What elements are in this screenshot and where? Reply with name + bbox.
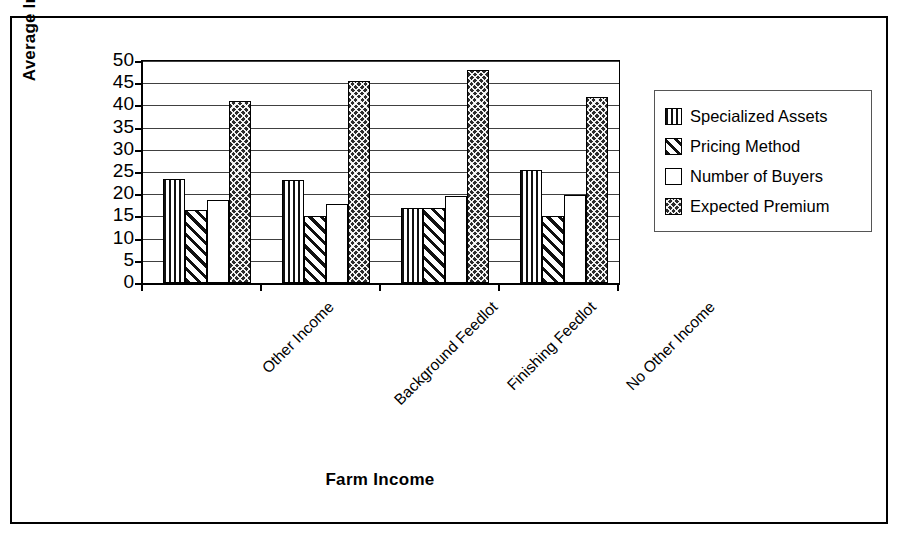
y-tick-mark [135, 150, 142, 152]
x-category-label: Background Feedlot [390, 298, 501, 409]
y-tick-label: 20 [94, 183, 134, 202]
y-tick-mark [135, 239, 142, 241]
bar [520, 170, 542, 283]
bar [564, 195, 586, 283]
bar [229, 101, 251, 283]
bar [282, 180, 304, 283]
legend-label: Pricing Method [690, 137, 800, 156]
gridline [143, 172, 619, 173]
bar [586, 97, 608, 283]
bar [467, 70, 489, 283]
legend-item: Expected Premium [665, 191, 863, 221]
bar [542, 216, 564, 283]
legend-item: Specialized Assets [665, 101, 863, 131]
y-tick-mark [135, 61, 142, 63]
legend-item: Number of Buyers [665, 161, 863, 191]
gridline [143, 61, 619, 62]
y-tick-mark [135, 261, 142, 263]
y-tick-mark [135, 128, 142, 130]
y-tick-label: 40 [94, 94, 134, 113]
y-tick-mark [135, 83, 142, 85]
bar [445, 196, 467, 283]
y-tick-label: 45 [94, 72, 134, 91]
bar [423, 208, 445, 283]
legend-swatch-icon [665, 108, 682, 125]
bar [326, 204, 348, 283]
y-tick-label: 10 [94, 228, 134, 247]
legend-label: Specialized Assets [690, 107, 828, 126]
legend-label: Expected Premium [690, 197, 829, 216]
x-tick-mark [260, 284, 262, 291]
y-tick-mark [135, 216, 142, 218]
x-category-label: Finishing Feedlot [503, 298, 599, 394]
x-axis-tick-marks [141, 284, 619, 294]
bar [304, 216, 326, 283]
y-tick-label: 25 [94, 161, 134, 180]
x-tick-mark [617, 284, 619, 291]
legend-swatch-icon [665, 198, 682, 215]
y-tick-label: 5 [94, 250, 134, 269]
legend-label: Number of Buyers [690, 167, 823, 186]
legend-swatch-icon [665, 168, 682, 185]
gridline [143, 194, 619, 195]
plot-area [141, 60, 620, 285]
x-tick-mark [141, 284, 143, 291]
bar [207, 200, 229, 283]
x-tick-mark [379, 284, 381, 291]
gridline [143, 105, 619, 106]
y-tick-label: 35 [94, 117, 134, 136]
gridline [143, 83, 619, 84]
bar [185, 210, 207, 283]
y-tick-mark [135, 105, 142, 107]
y-tick-label: 50 [94, 50, 134, 69]
x-axis-title: Farm Income [141, 470, 619, 490]
legend-item: Pricing Method [665, 131, 863, 161]
x-tick-mark [498, 284, 500, 291]
y-axis-title: Average Importance [20, 0, 50, 108]
bar [163, 179, 185, 283]
bar [348, 81, 370, 283]
gridline [143, 150, 619, 151]
bar [401, 208, 423, 283]
chart-figure: Average Importance 05101520253035404550 … [10, 16, 888, 524]
legend-swatch-icon [665, 138, 682, 155]
y-tick-label: 30 [94, 139, 134, 158]
y-tick-mark [135, 172, 142, 174]
chart-legend: Specialized AssetsPricing MethodNumber o… [654, 90, 872, 232]
x-category-label: Other Income [258, 298, 337, 377]
y-axis-tick-labels: 05101520253035404550 [88, 60, 134, 282]
y-tick-mark [135, 194, 142, 196]
y-tick-label: 0 [94, 272, 134, 291]
x-category-label: No Other Income [622, 298, 718, 394]
gridline [143, 128, 619, 129]
y-tick-label: 15 [94, 205, 134, 224]
